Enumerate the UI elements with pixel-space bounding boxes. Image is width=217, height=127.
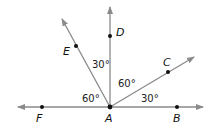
angle-label-EAF: 60°: [82, 93, 100, 104]
point-B: [175, 105, 179, 109]
point-A: [108, 105, 113, 110]
point-F: [40, 105, 44, 109]
label-E: E: [63, 45, 70, 58]
label-A: A: [104, 112, 113, 125]
angle-label-BAC: 30°: [141, 93, 159, 104]
point-C: [166, 70, 170, 74]
point-E: [74, 44, 78, 48]
point-D: [108, 34, 112, 38]
label-B: B: [173, 112, 181, 125]
label-C: C: [163, 56, 171, 69]
label-D: D: [116, 26, 124, 39]
label-F: F: [36, 112, 43, 125]
angle-diagram: A B F D E C 60° 30° 60° 30°: [0, 0, 217, 127]
angle-label-CAD: 60°: [118, 78, 136, 89]
angle-label-DAE: 30°: [92, 59, 110, 70]
